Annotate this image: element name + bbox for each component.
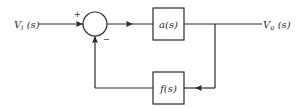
output-label: Vo (s) bbox=[263, 19, 291, 32]
forward-block-label: a(s) bbox=[159, 19, 178, 30]
summing-junction bbox=[83, 12, 107, 36]
minus-sign: − bbox=[103, 35, 110, 44]
feedback-block-label: f(s) bbox=[159, 83, 177, 94]
feedback-arrowhead-icon bbox=[195, 85, 202, 91]
input-label: Vi (s) bbox=[14, 19, 40, 32]
input-arrowhead-icon bbox=[76, 21, 83, 27]
feedback-input-arrowhead-icon bbox=[92, 36, 98, 43]
error-arrowhead-icon bbox=[126, 21, 133, 27]
plus-sign: + bbox=[74, 10, 81, 19]
feedback-diagram: Vi (s) + − a(s) Vo (s) f(s) bbox=[0, 0, 300, 108]
